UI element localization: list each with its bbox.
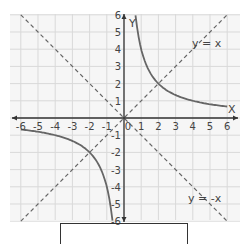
y-tick-label: -3 [111,165,121,176]
x-tick-label: 5 [207,121,213,132]
x-tick-label: 6 [224,121,230,132]
y-tick-label: -1 [111,130,121,141]
x-tick-label: 3 [172,121,178,132]
line-label-y-equals-neg-x: y = -x [188,192,222,205]
y-tick-label: -5 [111,199,121,210]
y-tick-label: 3 [115,61,121,72]
x-tick-label: 1 [138,121,144,132]
x-tick-label: -4 [50,121,60,132]
line-label-y-equals-x: y = x [192,37,222,50]
answer-box [60,223,188,244]
y-tick-label: 5 [115,27,121,38]
x-tick-label: 2 [155,121,161,132]
y-axis-label: Y [128,17,136,30]
y-tick-label: 6 [115,10,121,21]
x-tick-label: -6 [16,121,26,132]
x-tick-label: -3 [67,121,77,132]
y-tick-label: 2 [115,79,121,90]
y-tick-label: -2 [111,147,121,158]
x-tick-label: -2 [85,121,95,132]
x-tick-label: 4 [190,121,196,132]
hyperbola-graph: -6-5-4-3-2-10123456-6-5-4-3-2-1123456 X … [0,0,248,244]
y-tick-label: -4 [111,182,121,193]
y-tick-label: 4 [115,44,121,55]
y-tick-label: 1 [115,96,121,107]
x-axis-label: X [228,103,236,116]
x-tick-label: 0 [125,121,131,132]
x-tick-label: -5 [33,121,43,132]
